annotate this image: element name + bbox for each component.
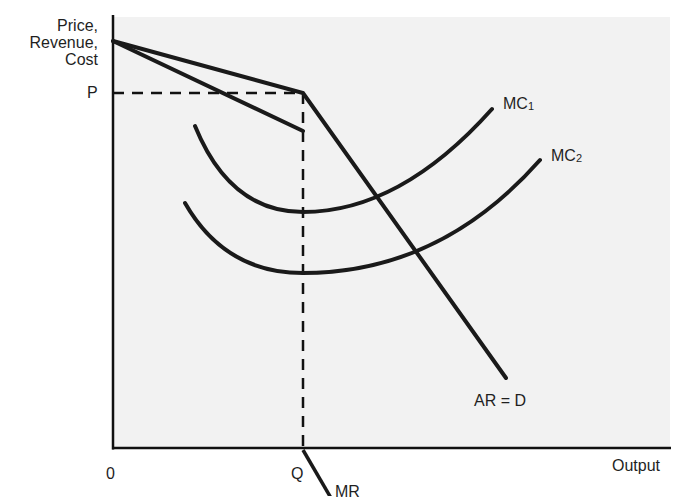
mc2-label-subscript: 2: [576, 152, 582, 164]
y-axis-label-line2: Revenue,: [30, 34, 99, 51]
quantity-tick-label: Q: [291, 465, 303, 482]
y-axis-label: Price, Revenue, Cost: [30, 17, 99, 68]
ar-demand-label: AR = D: [474, 392, 526, 409]
y-axis-label-line1: Price,: [30, 17, 99, 34]
mc1-label-subscript: 1: [528, 100, 534, 112]
mc1-label-text: MC: [503, 95, 528, 112]
mc1-curve: [195, 109, 492, 212]
origin-label: 0: [106, 465, 115, 482]
mr-lower-segment: [303, 450, 331, 496]
price-tick-label: P: [87, 84, 98, 101]
ar-demand-curve: [113, 41, 506, 378]
y-axis-label-line3: Cost: [30, 51, 99, 68]
mc2-label-text: MC: [551, 147, 576, 164]
x-axis-label: Output: [612, 457, 660, 474]
mc1-label: MC1: [503, 95, 534, 115]
mc2-label: MC2: [551, 147, 582, 167]
mr-label: MR: [335, 483, 360, 500]
